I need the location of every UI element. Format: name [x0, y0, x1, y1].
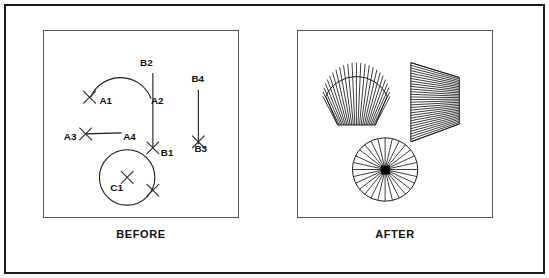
- panel-before: A1 A2 A3 A4 B1 B2 B3 B4 C1: [43, 30, 239, 218]
- label-b1: B1: [161, 147, 174, 158]
- wheel-surface: [352, 138, 417, 201]
- after-drawing: [298, 31, 492, 217]
- label-a4: A4: [123, 131, 136, 142]
- panel-after: [297, 30, 493, 218]
- label-a2: A2: [151, 95, 164, 106]
- wheel-hub: [381, 166, 390, 175]
- label-b3: B3: [194, 143, 207, 154]
- marker-c1-edge: [147, 184, 159, 196]
- caption-after: AFTER: [297, 228, 493, 240]
- label-b2: B2: [140, 57, 153, 68]
- shell-surface: [323, 63, 390, 125]
- label-b4: B4: [191, 73, 204, 84]
- before-drawing: A1 A2 A3 A4 B1 B2 B3 B4 C1: [44, 31, 238, 217]
- figure-container: A1 A2 A3 A4 B1 B2 B3 B4 C1: [0, 0, 549, 278]
- marker-c1-center: [121, 171, 133, 183]
- trapezoid-surface: [411, 63, 459, 142]
- label-a3: A3: [64, 131, 77, 142]
- marker-a1: [84, 91, 96, 103]
- caption-before: BEFORE: [43, 228, 239, 240]
- label-a1: A1: [99, 95, 112, 106]
- label-c1: C1: [110, 182, 123, 193]
- line-a3-a4: [86, 133, 122, 134]
